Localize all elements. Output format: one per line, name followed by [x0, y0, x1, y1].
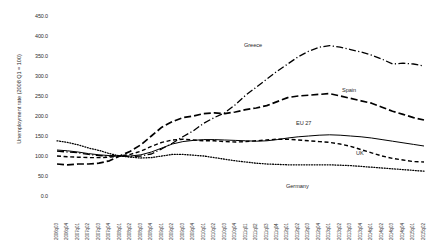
series-line-eu-27	[57, 135, 424, 156]
x-tick-2013q01: 2013q01	[326, 223, 331, 240]
x-tick-2015q01: 2015q01	[410, 223, 415, 240]
x-tick-2012q04: 2012q04	[316, 223, 321, 240]
series-label-germany: Germany	[286, 183, 309, 189]
x-tick-2011q01: 2011q01	[243, 224, 248, 241]
x-tick-2009q01: 2009q01	[159, 223, 164, 240]
x-tick-2010q03: 2010q03	[222, 223, 227, 240]
x-tick-2010q01: 2010q01	[201, 223, 206, 240]
x-tick-2007q02: 2007q02	[85, 223, 90, 240]
x-tick-2008q04: 2008q04	[148, 223, 153, 240]
series-line-uk	[57, 139, 424, 162]
x-tick-2008q03: 2008q03	[138, 223, 143, 240]
x-tick-2008q02: 2008q02	[127, 223, 132, 240]
x-tick-2009q02: 2009q02	[169, 223, 174, 240]
x-tick-2013q04: 2013q04	[358, 223, 363, 240]
series-label-spain: Spain	[342, 87, 356, 93]
x-tick-2015q02: 2015q02	[421, 223, 426, 240]
unemployment-index-line-chart: Unemployment rate (2008 Q1 = 100) 0.050.…	[0, 0, 431, 243]
x-tick-2010q04: 2010q04	[232, 223, 237, 240]
x-tick-2007q04: 2007q04	[106, 223, 111, 240]
x-tick-2007q01: 2007q01	[75, 223, 80, 240]
series-line-greece	[57, 46, 424, 157]
x-tick-2014q01: 2014q01	[368, 223, 373, 240]
x-tick-2014q02: 2014q02	[379, 223, 384, 240]
x-tick-2007q03: 2007q03	[96, 223, 101, 240]
series-label-eu-27: EU 27	[296, 120, 311, 126]
x-tick-2012q02: 2012q02	[295, 223, 300, 240]
x-tick-2013q02: 2013q02	[337, 223, 342, 240]
x-tick-2011q02: 2011q02	[253, 224, 258, 241]
x-tick-2008q01: 2008q01	[117, 223, 122, 240]
x-tick-2011q03: 2011q03	[264, 224, 269, 241]
x-tick-2009q03: 2009q03	[180, 223, 185, 240]
plot-area	[0, 0, 431, 243]
x-tick-2012q01: 2012q01	[284, 223, 289, 240]
x-tick-2012q03: 2012q03	[305, 223, 310, 240]
x-tick-2006q04: 2006q04	[64, 223, 69, 240]
x-tick-2006q03: 2006q03	[54, 223, 59, 240]
series-label-uk: UK	[356, 150, 364, 156]
x-tick-2014q04: 2014q04	[400, 223, 405, 240]
series-label-greece: Greece	[244, 42, 262, 48]
x-tick-2010q02: 2010q02	[211, 223, 216, 240]
x-tick-2011q04: 2011q04	[274, 224, 279, 241]
x-tick-2013q03: 2013q03	[347, 223, 352, 240]
x-tick-2014q03: 2014q03	[389, 223, 394, 240]
x-tick-2009q04: 2009q04	[190, 223, 195, 240]
